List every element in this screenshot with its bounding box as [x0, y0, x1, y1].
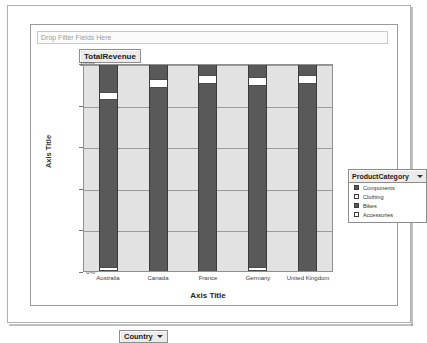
bar-segment-bikes[interactable] — [298, 84, 317, 271]
bar-segment-components[interactable] — [298, 65, 317, 75]
x-axis-tick-labels: AustraliaCanadaFranceGermanyUnited Kingd… — [83, 275, 333, 281]
bar-series-container — [84, 65, 332, 271]
bar-segment-bikes[interactable] — [99, 100, 118, 267]
chart-plot-frame: Axis Title 0%20%40%60%80%100% AustraliaC… — [31, 25, 399, 307]
bar-group-germany[interactable] — [233, 65, 283, 271]
bar-segment-components[interactable] — [99, 65, 118, 92]
legend-product-category[interactable]: ProductCategory ComponentsClothingBikesA… — [348, 169, 427, 223]
bar-group-canada[interactable] — [134, 65, 184, 271]
chevron-down-icon[interactable] — [417, 175, 423, 178]
x-axis-tick-label: Canada — [133, 275, 183, 281]
legend-item-accessories[interactable]: Accessories — [349, 210, 426, 219]
bar-group-united-kingdom[interactable] — [282, 65, 332, 271]
legend-title: ProductCategory — [352, 173, 409, 180]
legend-swatch-components — [354, 185, 359, 190]
bar-group-france[interactable] — [183, 65, 233, 271]
legend-item-label: Bikes — [363, 203, 377, 209]
legend-swatch-bikes — [354, 203, 359, 208]
plot-area — [83, 64, 333, 272]
bar-segment-clothing[interactable] — [99, 92, 118, 100]
field-button-country[interactable]: Country — [119, 330, 168, 343]
field-button-country-label: Country — [124, 332, 153, 341]
x-axis-tick-label: United Kingdom — [283, 275, 333, 281]
legend-items: ComponentsClothingBikesAccessories — [349, 183, 426, 219]
pivot-chart-object[interactable]: Drop Filter Fields Here TotalRevenue Cou… — [30, 24, 398, 306]
window-shadow-right — [411, 7, 413, 326]
stacked-bar[interactable] — [99, 65, 118, 271]
legend-swatch-accessories — [354, 212, 359, 217]
legend-item-clothing[interactable]: Clothing — [349, 192, 426, 201]
bar-segment-accessories[interactable] — [248, 267, 267, 271]
bar-segment-components[interactable] — [149, 65, 168, 79]
stacked-bar[interactable] — [198, 65, 217, 271]
window-shadow-bottom — [9, 324, 413, 326]
legend-item-label: Clothing — [363, 194, 384, 200]
bar-segment-bikes[interactable] — [248, 86, 267, 267]
y-axis-tick-mark — [79, 272, 83, 273]
legend-item-label: Components — [363, 185, 395, 191]
bar-segment-bikes[interactable] — [149, 88, 168, 271]
legend-item-components[interactable]: Components — [349, 183, 426, 192]
bar-segment-clothing[interactable] — [248, 77, 267, 85]
legend-swatch-clothing — [354, 194, 359, 199]
stacked-bar[interactable] — [149, 65, 168, 271]
stacked-bar[interactable] — [298, 65, 317, 271]
legend-item-label: Accessories — [363, 212, 393, 218]
x-axis-title: Axis Title — [83, 291, 333, 300]
stacked-bar[interactable] — [248, 65, 267, 271]
bar-segment-components[interactable] — [248, 65, 267, 77]
bar-segment-components[interactable] — [198, 65, 217, 75]
legend-item-bikes[interactable]: Bikes — [349, 201, 426, 210]
bar-segment-accessories[interactable] — [99, 267, 118, 271]
worksheet-canvas: Drop Filter Fields Here TotalRevenue Cou… — [7, 5, 411, 323]
bar-segment-clothing[interactable] — [149, 79, 168, 87]
chevron-down-icon[interactable] — [157, 335, 163, 338]
bar-segment-bikes[interactable] — [198, 84, 217, 271]
legend-header[interactable]: ProductCategory — [349, 170, 426, 183]
bar-group-australia[interactable] — [84, 65, 134, 271]
x-axis-tick-label: Australia — [83, 275, 133, 281]
bar-segment-clothing[interactable] — [298, 75, 317, 83]
bar-segment-clothing[interactable] — [198, 75, 217, 83]
y-axis-title: Axis Title — [44, 117, 53, 187]
x-axis-tick-label: Germany — [233, 275, 283, 281]
x-axis-tick-label: France — [183, 275, 233, 281]
